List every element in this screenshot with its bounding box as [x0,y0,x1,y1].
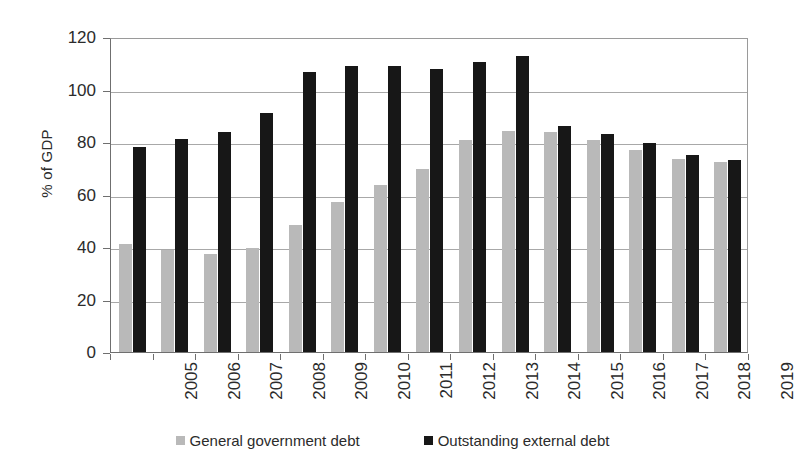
x-axis-label: 2015 [609,362,626,422]
x-axis-label: 2018 [736,362,753,422]
bars-layer [111,39,747,352]
bar-group [536,39,579,352]
bar-external-debt [133,147,146,352]
x-axis-tick [153,354,154,360]
plot-area [110,38,748,353]
x-axis-label: 2005 [183,362,200,422]
y-axis-label-text: 40 [40,239,96,256]
bar-gov-debt [246,248,259,352]
bar-group [409,39,452,352]
y-axis-tick [103,301,110,302]
legend-label: Outstanding external debt [438,432,610,449]
y-axis-tick [103,196,110,197]
bar-gov-debt [672,159,685,352]
bar-group [366,39,409,352]
x-axis-tick [195,354,196,360]
bar-group [706,39,749,352]
y-axis-label-text: 60 [40,187,96,204]
bar-gov-debt [204,254,217,352]
bar-external-debt [516,56,529,352]
bar-group [579,39,622,352]
bar-group [324,39,367,352]
x-axis-tick [663,354,664,360]
bar-external-debt [345,66,358,352]
bar-gov-debt [587,140,600,352]
x-axis-label: 2017 [694,362,711,422]
x-axis-tick [748,354,749,360]
bar-external-debt [686,155,699,352]
bar-gov-debt [289,225,302,352]
y-axis-tick [103,91,110,92]
x-axis-label: 2016 [651,362,668,422]
x-axis-tick [408,354,409,360]
bar-group [621,39,664,352]
bar-group [196,39,239,352]
legend-item: Outstanding external debt [424,432,610,449]
y-axis-tick [103,143,110,144]
bar-external-debt [601,134,614,352]
x-axis-label: 2006 [226,362,243,422]
y-axis-label-text: 80 [40,134,96,151]
bar-gov-debt [119,244,132,352]
x-axis-tick [493,354,494,360]
x-axis-label: 2010 [396,362,413,422]
bar-external-debt [643,143,656,352]
x-axis-label: 2012 [481,362,498,422]
x-axis-tick [323,354,324,360]
chart-legend: General government debtOutstanding exter… [0,432,785,449]
y-axis-tick [103,38,110,39]
legend-label: General government debt [190,432,360,449]
bar-gov-debt [629,150,642,352]
y-axis-tick [103,248,110,249]
x-axis-label: 2013 [524,362,541,422]
bar-external-debt [388,66,401,352]
bar-external-debt [558,126,571,352]
bar-group [281,39,324,352]
x-axis-tick [578,354,579,360]
x-axis-label: 2014 [566,362,583,422]
y-axis-label-text: 20 [40,292,96,309]
bar-group [111,39,154,352]
x-axis-tick [110,354,111,360]
bar-group [664,39,707,352]
bar-gov-debt [374,185,387,352]
x-axis-tick [450,354,451,360]
bar-external-debt [218,132,231,352]
legend-swatch-icon [424,436,433,445]
x-axis-tick [280,354,281,360]
y-axis-tick [103,353,110,354]
x-axis-label: 2008 [311,362,328,422]
bar-external-debt [303,72,316,352]
x-axis-tick [705,354,706,360]
x-axis-tick [620,354,621,360]
x-axis-label: 2007 [268,362,285,422]
bar-gov-debt [459,140,472,352]
bar-group [239,39,282,352]
legend-item: General government debt [176,432,360,449]
x-axis-tick [238,354,239,360]
legend-swatch-icon [176,436,185,445]
bar-group [451,39,494,352]
x-axis-tick [535,354,536,360]
bar-external-debt [728,160,741,352]
bar-gov-debt [544,132,557,352]
bar-gov-debt [714,162,727,352]
bar-gov-debt [502,131,515,352]
y-axis-label-text: 0 [40,344,96,361]
y-axis-label-text: 100 [40,82,96,99]
bar-group [154,39,197,352]
y-axis-label-text: 120 [40,29,96,46]
x-axis-label: 2009 [353,362,370,422]
bar-group [494,39,537,352]
y-axis-title: % of GDP [38,94,55,234]
bar-gov-debt [161,250,174,352]
x-axis-label: 2011 [438,362,455,422]
bar-external-debt [473,62,486,352]
x-axis-label: 2019 [779,362,796,422]
bar-gov-debt [416,169,429,352]
bar-external-debt [175,139,188,352]
bar-external-debt [430,69,443,353]
bar-external-debt [260,113,273,352]
x-axis-tick [365,354,366,360]
